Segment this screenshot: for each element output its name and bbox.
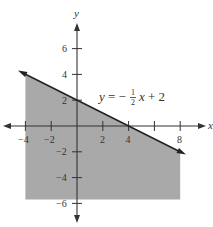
x-tick-label: 4 bbox=[126, 134, 131, 145]
y-tick-label: 6 bbox=[62, 43, 67, 54]
equation-denominator: 2 bbox=[131, 98, 135, 107]
y-tick-label: 4 bbox=[62, 69, 67, 80]
equation-numerator: 1 bbox=[131, 88, 135, 97]
y-tick-label: 2 bbox=[62, 95, 67, 106]
coordinate-plane: x y −4 −2 2 4 8 6 4 2 −2 −4 −6 y = − 1 2… bbox=[0, 0, 213, 227]
x-axis-right-arrow bbox=[198, 123, 206, 129]
x-tick-label: −2 bbox=[44, 134, 55, 145]
y-tick-label: −2 bbox=[56, 146, 67, 157]
y-tick-label: −4 bbox=[56, 172, 67, 183]
equation-suffix: x + 2 bbox=[138, 89, 165, 104]
x-axis-label: x bbox=[207, 119, 213, 131]
x-tick-label: 2 bbox=[100, 134, 105, 145]
x-tick-label: −4 bbox=[18, 134, 29, 145]
x-axis-left-arrow bbox=[3, 123, 11, 129]
y-axis-top-arrow bbox=[74, 23, 80, 31]
y-tick-label: −6 bbox=[56, 198, 67, 209]
x-tick-label: 8 bbox=[177, 134, 182, 145]
y-axis-bottom-arrow bbox=[74, 215, 80, 223]
equation-annotation: y = − 1 2 x + 2 bbox=[97, 88, 165, 107]
y-axis-label: y bbox=[73, 7, 79, 19]
equation-prefix: y = − bbox=[97, 89, 126, 104]
